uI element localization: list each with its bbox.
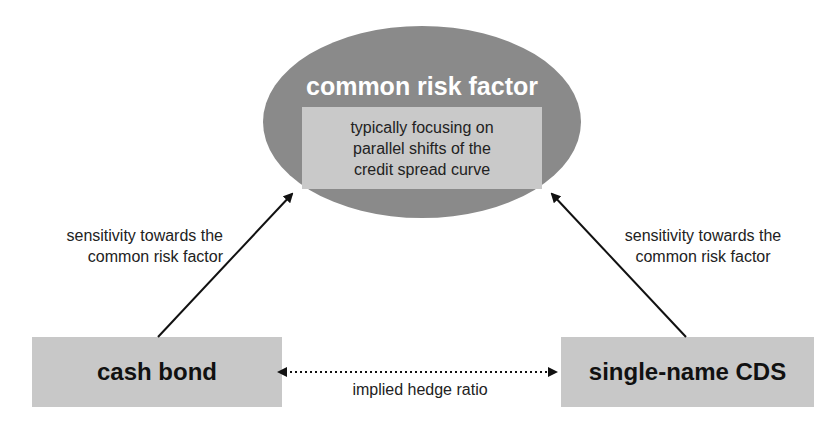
arrows-layer: [0, 0, 826, 429]
left-sensitivity-arrow: [158, 194, 292, 337]
right-sensitivity-arrow: [552, 194, 686, 337]
